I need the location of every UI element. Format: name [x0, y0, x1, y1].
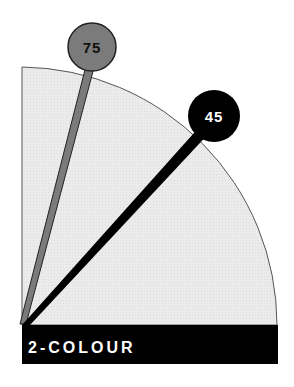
needle-75-value: 75 — [83, 39, 102, 56]
banner-label: 2-COLOUR — [28, 339, 136, 356]
needle-45-value: 45 — [205, 108, 224, 125]
quarter-dial-diagram: 2-COLOUR 75 45 — [0, 0, 294, 387]
